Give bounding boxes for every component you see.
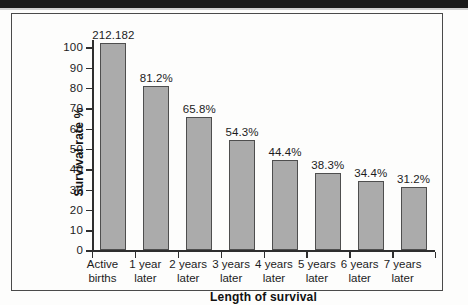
page-top-rule [0, 0, 468, 8]
bar-value-label: 38.3% [311, 159, 344, 171]
y-tick-mark [86, 230, 92, 231]
y-tick-mark [86, 88, 92, 89]
x-category-label-line: later [124, 272, 167, 286]
y-tick-label: 20 [70, 204, 83, 216]
figure-page: Survival rate % Length of survival 01020… [0, 0, 468, 305]
bar: 34.4% [358, 181, 384, 251]
y-tick-label: 70 [70, 102, 83, 114]
bar-value-label: 34.4% [354, 167, 387, 179]
x-category-label: 1 yearlater [124, 258, 167, 285]
y-tick-mark [86, 129, 92, 130]
x-category-label: 4 yearslater [253, 258, 296, 285]
y-tick-label: 0 [76, 244, 83, 256]
x-category-label-line: 4 years [253, 258, 296, 272]
figure-frame: Survival rate % Length of survival 01020… [11, 13, 443, 291]
bar: 65.8% [186, 117, 212, 251]
x-category-label-line: 3 years [210, 258, 253, 272]
x-category-label-line: later [381, 272, 424, 286]
y-tick-label: 50 [70, 143, 83, 155]
y-tick-mark [86, 190, 92, 191]
x-category-label-line: later [253, 272, 296, 286]
bar: 212.182 [100, 43, 126, 250]
page-top-rule-shadow [0, 8, 468, 10]
bar-value-label: 81.2% [140, 72, 173, 84]
x-category-label-line: 5 years [295, 258, 338, 272]
x-category-label-line: later [338, 272, 381, 286]
x-category-label-line: later [295, 272, 338, 286]
x-category-label-line: later [210, 272, 253, 286]
bar-value-label: 31.2% [397, 173, 430, 185]
x-category-label-line: 2 years [167, 258, 210, 272]
x-category-label: 5 yearslater [295, 258, 338, 285]
x-category-label: 3 yearslater [210, 258, 253, 285]
y-tick-label: 60 [70, 123, 83, 135]
y-tick-label: 10 [70, 224, 83, 236]
y-tick-mark [86, 108, 92, 109]
bar: 31.2% [401, 187, 427, 250]
plot-area: 0102030405060708090100 212.18281.2%65.8%… [92, 40, 435, 252]
x-category-label-line: later [167, 272, 210, 286]
y-tick-label: 100 [63, 41, 83, 53]
bar-value-label: 65.8% [183, 103, 216, 115]
bar-value-label: 212.182 [92, 29, 134, 41]
x-category-label: Activebirths [81, 258, 124, 285]
bar-value-label: 54.3% [226, 126, 259, 138]
x-category-label-line: births [81, 272, 124, 286]
x-category-label-line: Active [81, 258, 124, 272]
x-category-label-line: 1 year [124, 258, 167, 272]
x-category-label: 7 yearslater [381, 258, 424, 285]
y-tick-label: 40 [70, 163, 83, 175]
y-tick-label: 90 [70, 62, 83, 74]
x-category-label: 2 yearslater [167, 258, 210, 285]
bar: 54.3% [229, 140, 255, 250]
y-axis-line [92, 40, 94, 252]
bar: 44.4% [272, 160, 298, 250]
x-category-label-line: 6 years [338, 258, 381, 272]
y-tick-mark [86, 210, 92, 211]
x-category-label: 6 yearslater [338, 258, 381, 285]
x-category-label-line: 7 years [381, 258, 424, 272]
bar: 81.2% [143, 86, 169, 251]
y-tick-mark [86, 47, 92, 48]
y-tick-label: 80 [70, 82, 83, 94]
bar-value-label: 44.4% [268, 146, 301, 158]
y-tick-mark [86, 149, 92, 150]
bar: 38.3% [315, 173, 341, 251]
x-axis-title: Length of survival [92, 290, 435, 304]
y-tick-mark [86, 169, 92, 170]
y-tick-mark [86, 68, 92, 69]
y-tick-label: 30 [70, 184, 83, 196]
x-tick-mark [435, 252, 436, 258]
